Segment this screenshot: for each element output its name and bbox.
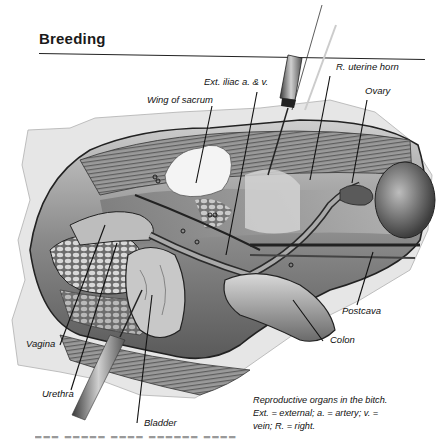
label-bladder: Bladder xyxy=(144,417,177,428)
caption-line-1: Reproductive organs in the bitch. xyxy=(253,394,433,407)
label-wing-of-sacrum: Wing of sacrum xyxy=(147,94,213,105)
label-colon: Colon xyxy=(330,334,355,345)
label-urethra: Urethra xyxy=(42,388,74,399)
label-vagina: Vagina xyxy=(26,338,55,349)
caption-line-2: Ext. = external; a. = artery; v. = xyxy=(253,407,433,420)
label-ext-iliac: Ext. iliac a. & v. xyxy=(204,76,268,87)
label-ovary: Ovary xyxy=(365,85,390,96)
caption-line-3: vein; R. = right. xyxy=(253,420,433,433)
cut-off-text-line: ▀▀▀ ▀▀▀▀▀ ▀▀▀▀ ▀▀▀▀▀▀ ▀▀▀▀ xyxy=(35,436,265,442)
label-postcava: Postcava xyxy=(342,305,381,316)
page: Breeding xyxy=(0,0,442,442)
figure-caption: Reproductive organs in the bitch. Ext. =… xyxy=(253,394,433,433)
label-r-uterine-horn: R. uterine horn xyxy=(336,61,399,72)
